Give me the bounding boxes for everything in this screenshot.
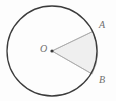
label-center-o: O [40,44,47,54]
sector-oab-shape [52,32,98,75]
circle-sector-svg [0,0,116,101]
label-point-b: B [99,75,105,85]
label-point-a: A [99,20,105,30]
center-point-dot [50,49,53,52]
geometry-figure: O A B [0,0,116,101]
